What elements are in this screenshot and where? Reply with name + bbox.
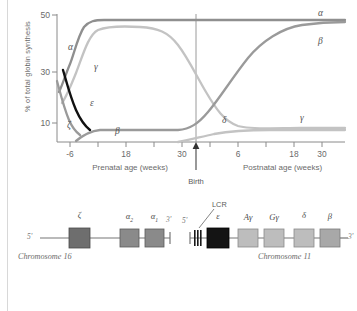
- gene-box-epsilon: [207, 228, 229, 248]
- gene-box-beta: [320, 229, 340, 247]
- gene-label-beta: β: [320, 211, 340, 221]
- curve-label-gamma-right: γ: [300, 113, 304, 123]
- chr16-five-prime-label: 5': [27, 232, 32, 241]
- curve-label-epsilon: ε: [90, 98, 94, 108]
- chromosome-16-caption: Chromosome 16: [18, 252, 72, 261]
- chr11-three-prime-label: 3': [348, 232, 353, 241]
- gene-label-epsilon: ε: [207, 211, 229, 221]
- chromosome-11-caption: Chromosome 11: [258, 252, 311, 261]
- gene-box-alpha1: [145, 229, 164, 247]
- curve-delta: [178, 130, 345, 142]
- gene-label-zeta: ζ: [69, 210, 90, 220]
- figure-page: % of total globin synthesis 50 30 10: [0, 0, 357, 311]
- chr11-five-prime-label: 5': [182, 216, 187, 225]
- x-tick-postnatal-6: 6: [227, 149, 249, 159]
- globin-gene-cluster-diagram: 5' ζ α2 α1 3' Chromosome 16 5' LCR ε Aγ …: [0, 195, 357, 311]
- curve-beta: [76, 22, 345, 141]
- gene-label-delta: δ: [294, 210, 314, 220]
- gene-box-zeta: [69, 228, 90, 248]
- gene-label-alpha2: α2: [117, 211, 142, 223]
- curve-label-alpha-right: α: [318, 8, 323, 18]
- curve-label-zeta: ζ: [67, 120, 71, 130]
- gene-box-A-gamma: [238, 229, 258, 247]
- curve-alpha: [59, 20, 345, 92]
- gene-label-alpha2-subscript: 2: [130, 217, 133, 223]
- x-tick-prenatal-18: 18: [115, 149, 137, 159]
- curve-label-beta-right: β: [318, 36, 323, 46]
- curve-label-gamma-left: γ: [94, 62, 98, 72]
- gene-label-G-gamma: Gγ: [264, 212, 284, 222]
- curve-label-beta-left: β: [115, 126, 120, 136]
- gene-label-alpha1: α1: [142, 211, 167, 223]
- x-tick-postnatal-18: 18: [283, 149, 305, 159]
- gene-box-G-gamma: [264, 229, 284, 247]
- gene-box-delta: [294, 229, 314, 247]
- curve-label-delta: δ: [222, 115, 226, 125]
- gene-label-alpha1-subscript: 1: [155, 217, 158, 223]
- gene-label-A-gamma: Aγ: [238, 212, 258, 222]
- lcr-hypersensitive-sites: [194, 230, 202, 246]
- chr16-three-prime-label: 3': [166, 215, 171, 224]
- x-axis-title-postnatal: Postnatal age (weeks): [220, 163, 345, 172]
- globin-switching-chart: % of total globin synthesis 50 30 10: [0, 0, 357, 195]
- x-tick-prenatal--6: -6: [59, 149, 81, 159]
- birth-arrow-head: [193, 142, 200, 149]
- x-tick-postnatal-30: 30: [311, 149, 333, 159]
- gene-box-alpha2: [120, 229, 139, 247]
- curve-label-alpha-left: α: [68, 42, 73, 52]
- x-tick-prenatal-30: 30: [171, 149, 193, 159]
- x-axis-title-prenatal: Prenatal age (weeks): [70, 163, 190, 172]
- lcr-label: LCR: [212, 200, 227, 209]
- birth-label: Birth: [176, 177, 216, 186]
